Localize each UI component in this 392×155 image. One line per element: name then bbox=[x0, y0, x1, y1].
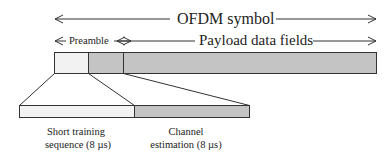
payload-label: Payload data fields bbox=[199, 33, 313, 48]
channel-estimation-line2: estimation (8 µs) bbox=[148, 138, 224, 151]
zoom-line-mid bbox=[89, 74, 135, 106]
short-training-expanded bbox=[20, 106, 135, 118]
short-training-label: Short training sequence (8 µs) bbox=[45, 125, 107, 151]
short-training-line2: sequence (8 µs) bbox=[45, 138, 107, 151]
zoom-line-left bbox=[20, 74, 55, 106]
short-training-line1: Short training bbox=[45, 125, 107, 138]
ofdm-symbol-label: OFDM symbol bbox=[175, 11, 276, 27]
channel-estimation-expanded bbox=[135, 106, 250, 118]
payload-block bbox=[124, 53, 377, 74]
zoom-line-right bbox=[124, 74, 250, 106]
short-training-block bbox=[55, 53, 89, 74]
channel-estimation-block bbox=[89, 53, 124, 74]
channel-estimation-label: Channel estimation (8 µs) bbox=[148, 125, 224, 151]
channel-estimation-line1: Channel bbox=[148, 125, 224, 138]
preamble-label: Preamble bbox=[69, 36, 109, 47]
